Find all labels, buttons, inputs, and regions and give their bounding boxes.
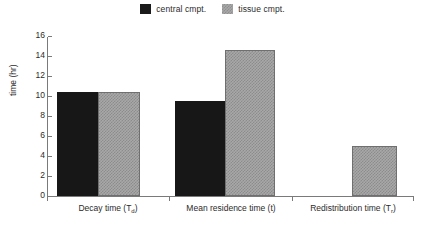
y-tick-14: 14 xyxy=(5,56,52,57)
y-tick-16: 16 xyxy=(5,36,52,37)
light-hatched-square-swatch xyxy=(222,4,233,14)
y-axis-line xyxy=(47,37,48,197)
y-tick-12: 12 xyxy=(5,76,52,77)
y-tick-mark xyxy=(48,176,52,177)
x-axis-line xyxy=(47,196,414,197)
category-separator xyxy=(292,197,293,201)
category-separator xyxy=(47,197,48,201)
bar-central-cmpt-decay-time xyxy=(57,92,98,196)
category-label-redistribution-time: Redistribution time (Tr) xyxy=(310,203,396,213)
y-tick-mark xyxy=(48,136,52,137)
y-tick-mark xyxy=(48,96,52,97)
legend-entry-tissue-cmpt: tissue cmpt. xyxy=(222,4,285,14)
bar-chart: central cmpt. tissue cmpt. time (hr) 16 … xyxy=(0,0,425,233)
y-tick-10: 10 xyxy=(5,96,52,97)
y-tick-mark xyxy=(48,76,52,77)
chart-legend: central cmpt. tissue cmpt. xyxy=(0,2,425,16)
y-tick-mark xyxy=(48,36,52,37)
y-tick-mark xyxy=(48,196,52,197)
bar-tissue-cmpt-redistribution-time xyxy=(352,146,397,196)
legend-entry-central-cmpt: central cmpt. xyxy=(140,4,206,14)
bar-central-cmpt-mean-residence-time xyxy=(175,101,225,196)
y-tick-mark xyxy=(48,156,52,157)
y-tick-6: 6 xyxy=(5,136,52,137)
y-tick-2: 2 xyxy=(5,176,52,177)
y-tick-mark xyxy=(48,56,52,57)
plot-area: 16 14 12 10 8 6 4 2 xyxy=(47,30,414,197)
legend-label-tissue-cmpt: tissue cmpt. xyxy=(238,4,285,14)
category-label-decay-time: Decay time (Td) xyxy=(78,203,137,213)
category-separator xyxy=(413,197,414,201)
y-tick-4: 4 xyxy=(5,156,52,157)
y-tick-mark xyxy=(48,116,52,117)
legend-label-central-cmpt: central cmpt. xyxy=(156,4,206,14)
category-label-mean-residence-time: Mean residence time (t) xyxy=(186,203,275,213)
bar-tissue-cmpt-decay-time xyxy=(98,92,140,196)
y-axis-title: time (hr) xyxy=(8,64,18,96)
bar-tissue-cmpt-mean-residence-time xyxy=(225,50,275,196)
y-tick-0: 0 xyxy=(5,196,52,197)
dark-square-swatch xyxy=(140,4,151,14)
y-tick-8: 8 xyxy=(5,116,52,117)
category-separator xyxy=(169,197,170,201)
